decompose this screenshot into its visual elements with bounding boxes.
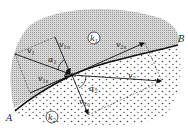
refraction-diagram: k1 k2 A B v1 v1n v1s v2 v2n v2s α1 α2 — [0, 0, 188, 137]
label-A: A — [5, 113, 13, 123]
incidence-point — [70, 73, 74, 77]
label-B: B — [177, 34, 185, 44]
